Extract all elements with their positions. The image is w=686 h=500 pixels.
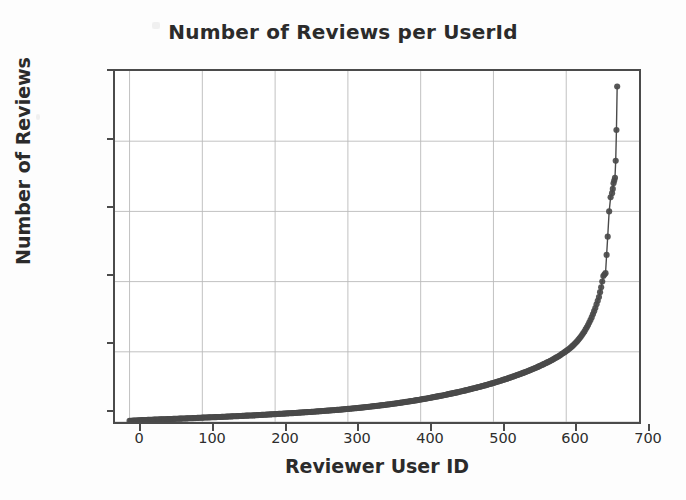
x-tick-label: 100: [182, 430, 242, 446]
scan-artifact: [36, 114, 40, 120]
x-tick-label: 0: [109, 430, 169, 446]
x-tick-label: 600: [545, 430, 605, 446]
x-tick-label: 400: [400, 430, 460, 446]
chart-title: Number of Reviews per UserId: [0, 20, 686, 44]
x-tick-label: 300: [327, 430, 387, 446]
chart-screenshot: Number of Reviews per UserId Number of R…: [0, 0, 686, 500]
y-axis-label: Number of Reviews: [12, 11, 34, 311]
scatter-series: [115, 71, 639, 422]
x-tick-label: 200: [255, 430, 315, 446]
plot-area: [113, 69, 641, 424]
x-axis-label: Reviewer User ID: [113, 455, 641, 477]
x-tick-label: 500: [473, 430, 533, 446]
x-tick-label: 700: [618, 430, 678, 446]
